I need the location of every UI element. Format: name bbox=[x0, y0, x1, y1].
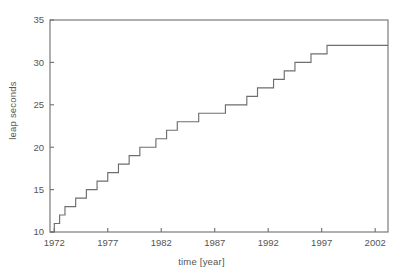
plot-area: 1015202530351972197719821987199219972002 bbox=[0, 0, 403, 279]
x-axis-label: time [year] bbox=[0, 256, 403, 267]
x-tick-label: 1977 bbox=[97, 237, 118, 248]
plot-frame bbox=[50, 20, 388, 232]
y-tick-label: 35 bbox=[33, 14, 44, 25]
y-tick-label: 15 bbox=[33, 184, 44, 195]
y-tick-label: 30 bbox=[33, 57, 44, 68]
y-tick-label: 10 bbox=[33, 226, 44, 237]
x-tick-label: 2002 bbox=[365, 237, 386, 248]
y-axis-label: leap seconds bbox=[7, 66, 18, 156]
x-tick-label: 1992 bbox=[258, 237, 279, 248]
y-tick-label: 25 bbox=[33, 99, 44, 110]
step-line-series bbox=[50, 45, 388, 232]
x-tick-label: 1982 bbox=[151, 237, 172, 248]
x-tick-label: 1972 bbox=[44, 237, 65, 248]
x-tick-label: 1997 bbox=[311, 237, 332, 248]
leap-seconds-chart: 1015202530351972197719821987199219972002… bbox=[0, 0, 403, 279]
x-tick-label: 1987 bbox=[204, 237, 225, 248]
y-tick-label: 20 bbox=[33, 142, 44, 153]
